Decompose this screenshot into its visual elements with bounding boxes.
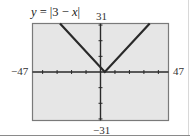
right-edge-divider [188, 0, 189, 135]
bottom-divider [0, 135, 190, 136]
graph-plot [0, 0, 190, 140]
